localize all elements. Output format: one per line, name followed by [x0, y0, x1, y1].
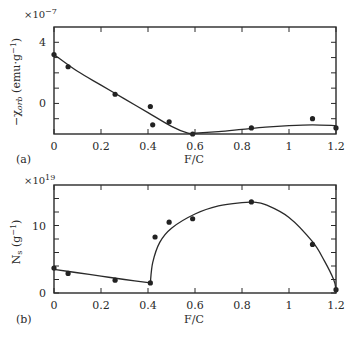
- panel-b-points: [51, 199, 338, 292]
- panel-a-data-point: [167, 119, 172, 124]
- panel-b-data-point: [249, 199, 254, 204]
- panel-b-xlabel: F/C: [184, 313, 204, 326]
- panel-a-data-point: [310, 116, 315, 121]
- panel-b-data-point: [66, 271, 71, 276]
- panel-a-label: (a): [16, 153, 31, 166]
- panel-a-xtick-label: 0.4: [139, 140, 157, 153]
- panel-a-data-point: [148, 104, 153, 109]
- panel-b-ylabel: Ns (g−1): [9, 220, 24, 265]
- panel-b-fit-line: [150, 202, 336, 290]
- panel-b: ×1019 Ns (g−1) (b) F/C 00.20.40.60.811.2…: [9, 173, 345, 326]
- panel-b-data-point: [310, 242, 315, 247]
- panel-a-xtick-label: 0: [51, 140, 58, 153]
- panel-b-fit-curves: [54, 202, 336, 290]
- panel-a-data-point: [150, 122, 155, 127]
- panel-a-ylabel: −χorb (emu·g−1): [9, 38, 24, 126]
- panel-a-data-point: [113, 92, 118, 97]
- panel-b-data-point: [152, 234, 157, 239]
- panel-a-ticks: [54, 27, 336, 134]
- panel-a: ×10−7 −χorb (emu·g−1) (a) F/C 00.20.40.6…: [9, 7, 345, 166]
- panel-b-data-point: [148, 280, 153, 285]
- panel-a-xtick-label: 1: [286, 140, 293, 153]
- panel-b-multiplier: ×1019: [24, 173, 55, 186]
- panel-b-xtick-label: 0.6: [186, 299, 204, 312]
- panel-b-xtick-label: 1: [286, 299, 293, 312]
- panel-b-data-point: [113, 278, 118, 283]
- panel-a-frame: [54, 27, 336, 134]
- panel-a-xtick-label: 0.6: [186, 140, 204, 153]
- panel-b-label: (b): [16, 313, 32, 326]
- panel-b-xtick-label: 0: [51, 299, 58, 312]
- panel-b-tick-labels: 00.20.40.60.811.2010: [32, 220, 345, 313]
- panel-a-xtick-label: 0.2: [92, 140, 110, 153]
- panel-b-ytick-label: 10: [32, 220, 46, 233]
- panel-a-multiplier: ×10−7: [24, 7, 57, 20]
- panel-a-ytick-label: 4: [39, 36, 46, 49]
- panel-b-xtick-label: 0.2: [92, 299, 110, 312]
- panel-a-xtick-label: 0.8: [233, 140, 251, 153]
- panel-b-ticks: [54, 185, 336, 293]
- panel-a-xlabel: F/C: [184, 153, 204, 166]
- panel-a-data-point: [66, 64, 71, 69]
- panel-a-data-point: [249, 125, 254, 130]
- panel-b-frame: [54, 185, 336, 293]
- panel-a-fit-curve: [54, 55, 336, 134]
- panel-b-xtick-label: 1.2: [327, 299, 345, 312]
- panel-b-xtick-label: 0.4: [139, 299, 157, 312]
- panel-a-points: [51, 52, 338, 137]
- panel-b-data-point: [167, 220, 172, 225]
- figure: ×10−7 −χorb (emu·g−1) (a) F/C 00.20.40.6…: [0, 0, 354, 338]
- panel-a-xtick-label: 1.2: [327, 140, 345, 153]
- panel-b-ytick-label: 0: [39, 287, 46, 300]
- panel-b-xtick-label: 0.8: [233, 299, 251, 312]
- panel-a-fit-line: [54, 55, 336, 134]
- panel-b-data-point: [190, 216, 195, 221]
- panel-a-ytick-label: 0: [39, 97, 46, 110]
